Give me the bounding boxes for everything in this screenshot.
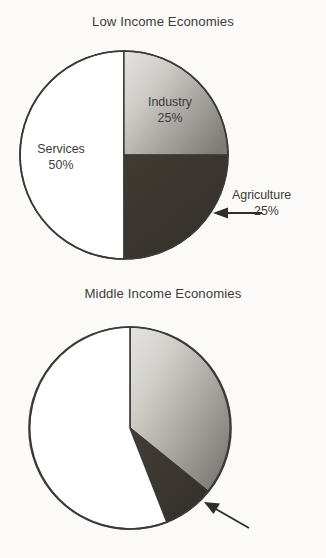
slice-label-agriculture-name: Agriculture [232,188,291,202]
slice-label-services-name: Services [37,142,85,156]
slice-label-services-pct: 50% [21,158,101,174]
pie-chart-middle-income: Middle Income Economies [0,280,326,558]
figure-root: Low Income Economies [0,0,326,558]
slice-label-agriculture-pct: 25% [254,204,326,220]
slice-label-industry-pct: 25% [129,111,211,127]
pie-slice-agriculture [124,155,228,259]
slice-label-industry: Industry 25% [129,95,211,126]
slice-label-industry-name: Industry [148,95,192,109]
leader-arrow-icon-agriculture [204,502,249,528]
pie-svg-middle-income [0,280,326,558]
slice-label-agriculture: Agriculture 25% [232,188,326,219]
pie-svg-low-income [0,0,326,280]
slice-label-services: Services 50% [21,142,101,173]
pie-chart-low-income: Low Income Economies [0,0,326,280]
